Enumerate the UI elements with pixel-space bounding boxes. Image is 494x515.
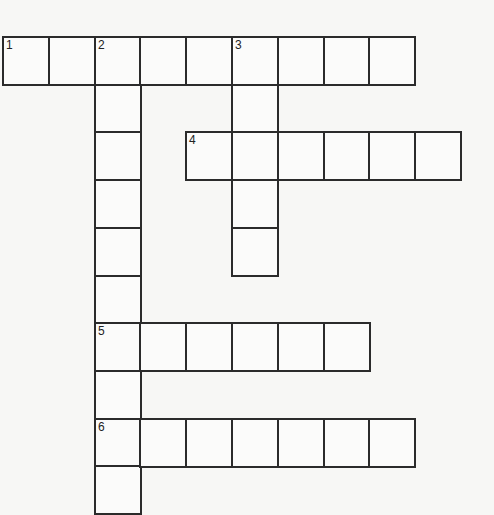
letter-input[interactable] (370, 420, 414, 466)
crossword-cell[interactable] (94, 275, 142, 325)
crossword-cell[interactable] (231, 418, 279, 468)
letter-input[interactable] (233, 420, 277, 466)
letter-input[interactable] (233, 133, 277, 179)
crossword-cell[interactable] (94, 465, 142, 515)
crossword-cell[interactable] (94, 227, 142, 277)
letter-input[interactable] (325, 38, 369, 84)
crossword-cell[interactable] (231, 131, 279, 181)
crossword-cell[interactable] (368, 131, 416, 181)
crossword-cell[interactable] (277, 322, 325, 372)
crossword-cell[interactable]: 2 (94, 36, 142, 86)
crossword-cell[interactable]: 5 (94, 322, 142, 372)
crossword-cell[interactable] (139, 36, 187, 86)
letter-input[interactable] (233, 229, 277, 275)
letter-input[interactable] (279, 324, 323, 370)
crossword-cell[interactable] (94, 370, 142, 420)
crossword-cell[interactable] (368, 36, 416, 86)
crossword-cell[interactable] (277, 418, 325, 468)
crossword-cell[interactable] (185, 418, 233, 468)
letter-input[interactable] (187, 420, 231, 466)
letter-input[interactable] (233, 38, 277, 84)
letter-input[interactable] (233, 181, 277, 227)
letter-input[interactable] (325, 133, 369, 179)
crossword-cell[interactable] (323, 131, 371, 181)
letter-input[interactable] (96, 277, 140, 323)
crossword-cell[interactable] (139, 322, 187, 372)
letter-input[interactable] (370, 133, 414, 179)
crossword-cell[interactable] (94, 84, 142, 134)
crossword-cell[interactable] (94, 131, 142, 181)
crossword-cell[interactable] (231, 179, 279, 229)
crossword-cell[interactable] (94, 179, 142, 229)
letter-input[interactable] (141, 324, 185, 370)
letter-input[interactable] (187, 133, 231, 179)
letter-input[interactable] (325, 420, 369, 466)
letter-input[interactable] (370, 38, 414, 84)
letter-input[interactable] (4, 38, 48, 84)
letter-input[interactable] (96, 38, 140, 84)
crossword-cell[interactable] (139, 418, 187, 468)
crossword-cell[interactable] (414, 131, 462, 181)
letter-input[interactable] (96, 181, 140, 227)
letter-input[interactable] (141, 420, 185, 466)
letter-input[interactable] (279, 420, 323, 466)
letter-input[interactable] (279, 133, 323, 179)
letter-input[interactable] (96, 324, 140, 370)
crossword-cell[interactable] (231, 227, 279, 277)
letter-input[interactable] (96, 86, 140, 132)
crossword-cell[interactable] (368, 418, 416, 468)
crossword-cell[interactable] (231, 84, 279, 134)
letter-input[interactable] (96, 229, 140, 275)
crossword-cell[interactable]: 4 (185, 131, 233, 181)
letter-input[interactable] (50, 38, 94, 84)
crossword-cell[interactable]: 3 (231, 36, 279, 86)
crossword-cell[interactable] (231, 322, 279, 372)
crossword-cell[interactable]: 1 (2, 36, 50, 86)
letter-input[interactable] (416, 133, 460, 179)
crossword-cell[interactable]: 6 (94, 418, 142, 468)
letter-input[interactable] (96, 420, 140, 466)
letter-input[interactable] (233, 86, 277, 132)
crossword-cell[interactable] (323, 322, 371, 372)
crossword-cell[interactable] (323, 36, 371, 86)
letter-input[interactable] (233, 324, 277, 370)
crossword-cell[interactable] (185, 36, 233, 86)
letter-input[interactable] (279, 38, 323, 84)
crossword-cell[interactable] (277, 36, 325, 86)
letter-input[interactable] (96, 372, 140, 418)
crossword-cell[interactable] (48, 36, 96, 86)
letter-input[interactable] (96, 133, 140, 179)
letter-input[interactable] (325, 324, 369, 370)
letter-input[interactable] (187, 324, 231, 370)
crossword-cell[interactable] (185, 322, 233, 372)
letter-input[interactable] (96, 467, 140, 513)
crossword-cell[interactable] (277, 131, 325, 181)
crossword-cell[interactable] (323, 418, 371, 468)
letter-input[interactable] (141, 38, 185, 84)
letter-input[interactable] (187, 38, 231, 84)
